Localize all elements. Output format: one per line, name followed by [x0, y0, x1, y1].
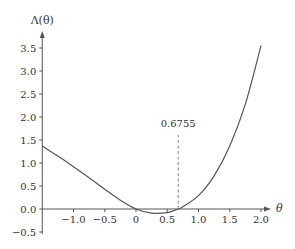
y-axis-label: Λ(θ)	[30, 14, 54, 27]
x-tick-label: −0.5	[93, 214, 117, 225]
x-tick-label: 1.5	[222, 214, 238, 225]
y-tick-label: 1.0	[20, 158, 36, 169]
lambda-curve	[42, 46, 261, 214]
x-axis-arrow-icon	[264, 207, 271, 212]
x-tick-label: 2.0	[253, 214, 269, 225]
y-tick-label: 2.0	[20, 112, 36, 123]
y-tick-label: −0.5	[12, 227, 36, 238]
y-tick-label: 3.5	[20, 43, 36, 54]
y-tick-label: 3.0	[20, 66, 36, 77]
y-tick-label: 0.5	[20, 181, 36, 192]
x-tick-label: 0	[133, 214, 139, 225]
y-tick-label: 0.0	[20, 204, 36, 215]
y-tick-label: 1.5	[20, 135, 36, 146]
x-axis-label: θ	[276, 202, 283, 215]
chart-container: −1.0−0.500.51.01.52.0−0.50.00.51.01.52.0…	[0, 0, 295, 249]
axes	[40, 31, 271, 234]
x-tick-label: 1.0	[191, 214, 207, 225]
y-tick-label: 2.5	[20, 89, 36, 100]
y-axis-arrow-icon	[40, 31, 45, 38]
x-tick-label: 0.5	[159, 214, 175, 225]
line-chart: −1.0−0.500.51.01.52.0−0.50.00.51.01.52.0…	[0, 0, 295, 249]
axis-ticks: −1.0−0.500.51.01.52.0−0.50.00.51.01.52.0…	[12, 43, 269, 238]
x-tick-label: −1.0	[61, 214, 85, 225]
annotation-label: 0.6755	[161, 118, 196, 129]
